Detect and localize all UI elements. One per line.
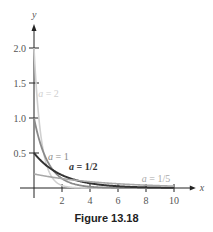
x-tick-label: 10: [169, 195, 179, 206]
x-tick-label: 2: [60, 195, 65, 206]
x-tick-label: 4: [88, 195, 93, 206]
y-tick-label: 1.0: [14, 113, 27, 124]
x-axis-label: x: [199, 182, 205, 193]
axes: xy2468100.51.01.52.0: [14, 9, 205, 206]
x-axis-arrow-icon: [190, 186, 196, 191]
figure-caption: Figure 13.18: [0, 212, 213, 224]
curves: [34, 48, 174, 188]
curve-label: a = 2: [38, 88, 59, 99]
y-tick-label: 0.5: [14, 148, 27, 159]
chart-plot: xy2468100.51.01.52.0 a = 2a = 1a = 1/2a …: [0, 0, 213, 210]
curve-label: a = 1/5: [142, 173, 170, 184]
curve-a2: [34, 48, 174, 188]
curve-label: a = 1/2: [69, 161, 97, 172]
y-tick-label: 2.0: [14, 43, 27, 54]
x-tick-label: 8: [144, 195, 149, 206]
curve-labels: a = 2a = 1a = 1/2a = 1/5: [38, 88, 170, 184]
curve-label: a = 1: [48, 151, 69, 162]
x-tick-label: 6: [116, 195, 121, 206]
y-tick-label: 1.5: [14, 78, 27, 89]
y-axis-label: y: [31, 9, 37, 20]
y-axis-arrow-icon: [32, 24, 37, 31]
